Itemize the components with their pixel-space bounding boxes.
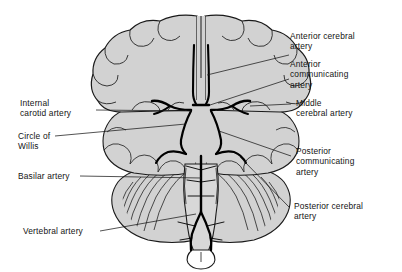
label-posterior-communicating-artery: Posterior communicating artery [296, 146, 355, 177]
label-vertebral-artery: Vertebral artery [23, 226, 83, 236]
label-middle-cerebral-artery: Middle cerebral artery [296, 98, 353, 119]
label-basilar-artery: Basilar artery [18, 171, 70, 181]
label-anterior-communicating-artery: Anterior communicating artery [290, 59, 349, 90]
label-internal-carotid-artery: Internal carotid artery [20, 98, 71, 119]
label-circle-of-willis: Circle of Willis [18, 131, 50, 152]
brain-body [55, 15, 311, 269]
figure-canvas: Anterior cerebral artery Anterior commun… [0, 0, 402, 272]
label-anterior-cerebral-artery: Anterior cerebral artery [290, 31, 355, 52]
frontal-lobe-left-fill [91, 15, 197, 112]
label-posterior-cerebral-artery: Posterior cerebral artery [294, 201, 363, 222]
